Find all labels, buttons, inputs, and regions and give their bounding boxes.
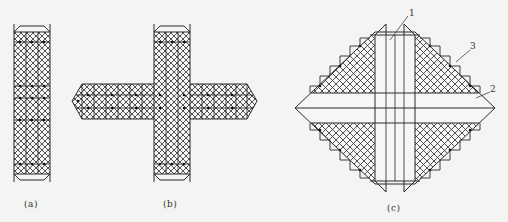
callout-label-3: 3	[470, 41, 476, 51]
callout-label-1: 1	[409, 8, 415, 18]
panel-c-diamond-lattice	[295, 16, 495, 192]
caption-panel-b: (b)	[163, 199, 177, 209]
figure-canvas	[0, 0, 508, 222]
callout-label-2: 2	[490, 84, 496, 94]
caption-panel-c: (c)	[387, 203, 401, 213]
panel-b-cross-lattice	[72, 24, 257, 182]
caption-panel-a: (a)	[24, 199, 38, 209]
panel-a-lattice-strip	[14, 24, 50, 182]
callout-3-leader	[456, 50, 470, 62]
